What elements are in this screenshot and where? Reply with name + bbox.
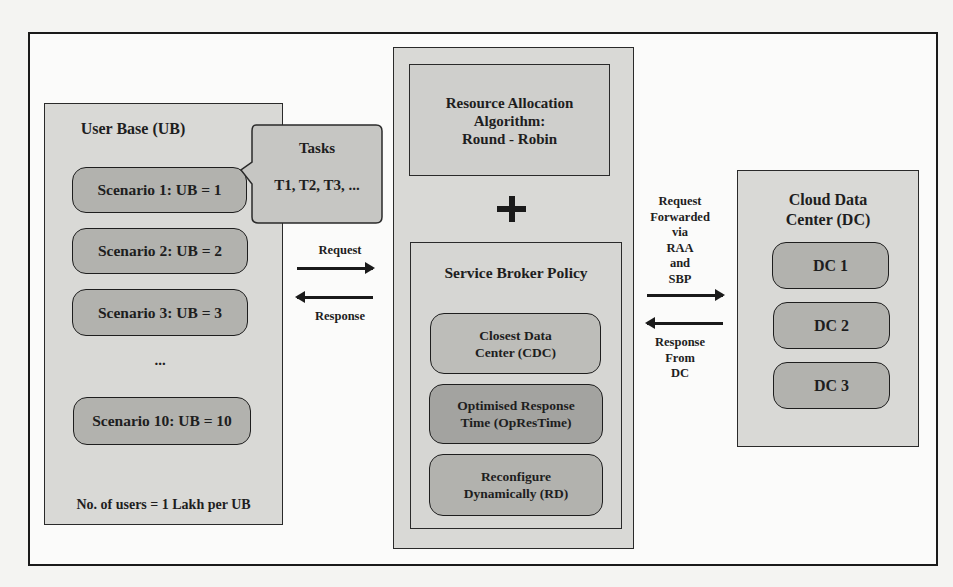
forward-request-arrow [647, 294, 723, 297]
policy-cdc: Closest Data Center (CDC) [430, 313, 601, 374]
scenario-2: Scenario 2: UB = 2 [72, 228, 248, 274]
dc-3: DC 3 [773, 362, 890, 409]
response-arrow [297, 296, 373, 299]
response-label: Response [290, 309, 390, 324]
scenario-3: Scenario 3: UB = 3 [72, 289, 248, 336]
raa-title-line1: Resource Allocation [409, 94, 610, 112]
policy-opresttime-line1: Optimised Response [457, 397, 574, 414]
dc-1: DC 1 [772, 242, 889, 289]
request-forwarded-label: Request Forwarded via RAA and SBP [640, 194, 720, 287]
raa-title-line3: Round - Robin [409, 130, 610, 148]
dc-response-arrow [647, 322, 723, 325]
response-from-dc-label: Response From DC [640, 335, 720, 382]
users-per-ub-note: No. of users = 1 Lakh per UB [44, 497, 283, 513]
policy-rd-line2: Dynamically (RD) [464, 485, 569, 502]
tasks-callout [236, 122, 386, 226]
tasks-title: Tasks [252, 140, 382, 157]
scenario-1: Scenario 1: UB = 1 [72, 167, 247, 213]
request-label: Request [290, 243, 390, 258]
policy-rd: Reconfigure Dynamically (RD) [429, 454, 603, 516]
user-base-title: User Base (UB) [44, 120, 222, 138]
sbp-title: Service Broker Policy [410, 264, 622, 282]
scenario-10: Scenario 10: UB = 10 [73, 397, 251, 445]
tasks-list: T1, T2, T3, ... [252, 177, 382, 194]
policy-cdc-line2: Center (CDC) [475, 344, 556, 361]
raa-title: Resource Allocation Algorithm: Round - R… [409, 94, 610, 148]
request-arrow [297, 267, 373, 270]
policy-opresttime: Optimised Response Time (OpResTime) [429, 384, 603, 444]
dc-2: DC 2 [773, 302, 890, 349]
policy-rd-line1: Reconfigure [481, 468, 551, 485]
dc-title: Cloud Data Center (DC) [737, 190, 919, 230]
policy-opresttime-line2: Time (OpResTime) [461, 414, 572, 431]
scenario-ellipsis: ... [72, 352, 248, 369]
raa-title-line2: Algorithm: [409, 112, 610, 130]
plus-icon [497, 196, 526, 222]
policy-cdc-line1: Closest Data [479, 327, 551, 344]
